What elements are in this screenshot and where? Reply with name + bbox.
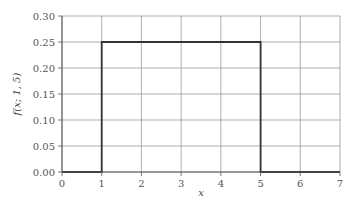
svg-text:5: 5 — [257, 178, 263, 189]
svg-text:0: 0 — [59, 178, 65, 189]
axes — [58, 16, 340, 176]
chart: 01234567 0.000.050.100.150.200.250.30 x … — [0, 0, 357, 212]
grid-lines — [62, 16, 340, 172]
svg-text:0.30: 0.30 — [33, 11, 55, 22]
svg-text:0.15: 0.15 — [33, 89, 55, 100]
x-axis-label: x — [198, 187, 204, 198]
svg-text:0.00: 0.00 — [33, 167, 55, 178]
svg-text:0.20: 0.20 — [33, 63, 55, 74]
svg-text:2: 2 — [138, 178, 144, 189]
svg-text:3: 3 — [178, 178, 184, 189]
svg-text:4: 4 — [218, 178, 224, 189]
svg-text:6: 6 — [297, 178, 303, 189]
svg-text:0.25: 0.25 — [33, 37, 55, 48]
y-axis-label: f(x; 1, 5) — [11, 73, 22, 117]
data-series — [62, 42, 340, 172]
y-tick-labels: 0.000.050.100.150.200.250.30 — [33, 11, 55, 178]
svg-text:0.05: 0.05 — [33, 141, 55, 152]
svg-text:0.10: 0.10 — [33, 115, 55, 126]
svg-text:7: 7 — [337, 178, 343, 189]
svg-text:1: 1 — [99, 178, 105, 189]
